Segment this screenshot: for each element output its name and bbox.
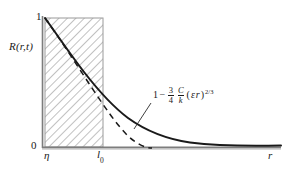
x-axis-label: r bbox=[268, 150, 272, 161]
formula-variable-r: r bbox=[196, 90, 200, 100]
formula-exponent: 2/3 bbox=[205, 89, 213, 96]
figure-container: R(r,t) 1 0 η l0 r 1 − 3 4 C k ( ε r ) 2/… bbox=[0, 0, 285, 175]
fraction-numerator: 3 bbox=[168, 86, 174, 95]
plot-canvas bbox=[0, 0, 285, 175]
formula-fraction-c-over-k: C k bbox=[177, 86, 185, 105]
x-tick-eta: η bbox=[44, 150, 49, 161]
y-tick-top: 1 bbox=[36, 11, 42, 22]
formula-paren-close: ) bbox=[201, 90, 204, 100]
formula-lead: 1 bbox=[153, 90, 158, 100]
formula-minus: − bbox=[159, 90, 166, 100]
formula-annotation: 1 − 3 4 C k ( ε r ) 2/3 bbox=[153, 86, 213, 105]
fraction-numerator: C bbox=[177, 86, 185, 95]
formula-epsilon: ε bbox=[191, 90, 195, 100]
y-axis-label: R(r,t) bbox=[9, 41, 33, 52]
hatched-region bbox=[45, 18, 103, 147]
annotation-leader-line bbox=[134, 103, 151, 129]
x-tick-l0: l0 bbox=[97, 149, 104, 163]
fraction-denominator: k bbox=[178, 95, 184, 105]
fraction-denominator: 4 bbox=[168, 95, 174, 105]
formula-fraction-three-quarters: 3 4 bbox=[168, 86, 174, 105]
formula-paren-open: ( bbox=[187, 90, 190, 100]
y-tick-bottom: 0 bbox=[31, 140, 37, 151]
x-tick-l0-subscript: 0 bbox=[100, 156, 104, 165]
